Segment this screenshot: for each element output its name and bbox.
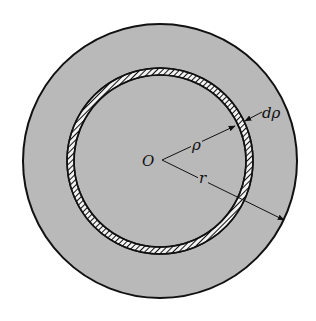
rho-label: ρ [191,136,201,154]
drho-label: dρ [262,104,281,122]
r-label: r [199,169,207,187]
cross-section-diagram: O ρ r dρ [0,0,316,321]
center-label: O [142,152,154,170]
outer-circle [23,24,297,298]
